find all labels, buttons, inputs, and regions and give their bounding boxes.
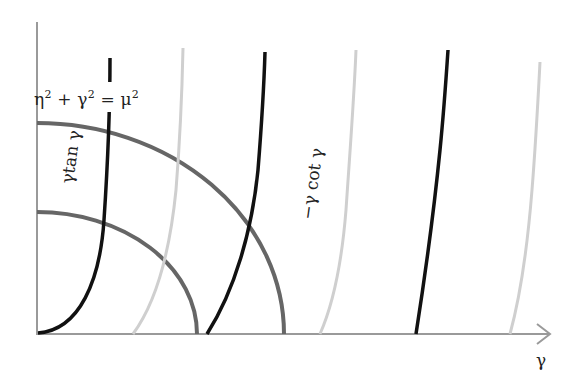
circle-equation-label: η2 + γ2 = μ2 <box>34 88 139 109</box>
cot-curve-1 <box>133 48 183 334</box>
eta-symbol: η <box>34 89 44 109</box>
plus-sign: + <box>52 89 78 109</box>
diagram-canvas <box>0 0 579 392</box>
cot-curve-2 <box>320 50 356 334</box>
cot-curve-3 <box>510 62 540 334</box>
gamma-symbol: γ <box>77 89 87 109</box>
exponent: 2 <box>132 88 139 101</box>
exponent: 2 <box>44 88 51 101</box>
exponent: 2 <box>88 88 95 101</box>
tan-curve-2 <box>207 52 265 334</box>
mu-symbol: μ <box>120 89 131 109</box>
small-circle-arc <box>37 212 197 334</box>
x-axis-label: γ <box>536 350 546 370</box>
equals-sign: = <box>95 89 121 109</box>
tan-curve-3 <box>416 50 448 334</box>
